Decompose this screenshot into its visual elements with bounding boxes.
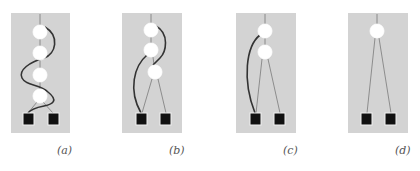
panel-c xyxy=(236,13,296,133)
node-circle xyxy=(148,65,162,79)
leaf-square xyxy=(361,113,372,125)
panel-c-caption: (c) xyxy=(283,144,298,157)
leaf-square xyxy=(23,113,34,125)
panel-b-caption: (b) xyxy=(169,144,185,157)
leaf-square xyxy=(48,113,59,125)
leaf-square xyxy=(385,113,396,125)
node-circle xyxy=(258,24,272,38)
panel-b xyxy=(122,13,182,133)
leaf-square xyxy=(250,113,261,125)
leaf-square xyxy=(136,113,147,125)
node-circle xyxy=(33,68,47,82)
node-circle xyxy=(370,24,384,38)
panel-d-caption: (d) xyxy=(395,144,411,157)
node-circle xyxy=(144,23,158,37)
panel-d xyxy=(348,13,408,133)
node-circle xyxy=(258,45,272,59)
leaf-square xyxy=(274,113,285,125)
node-circle xyxy=(144,43,158,57)
node-circle xyxy=(33,46,47,60)
node-circle xyxy=(33,25,47,39)
node-circle xyxy=(33,89,47,103)
panel-a xyxy=(11,13,70,133)
panel-a-caption: (a) xyxy=(57,144,72,157)
leaf-square xyxy=(160,113,171,125)
